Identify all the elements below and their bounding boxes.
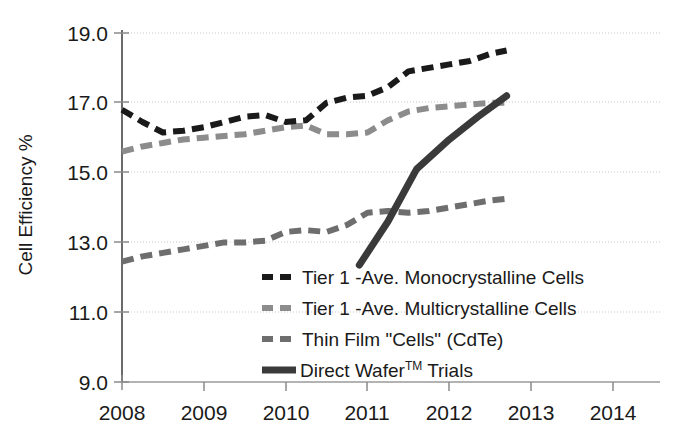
x-tick-label-2012: 2012 xyxy=(426,401,473,424)
y-tick-label-17: 17.0 xyxy=(67,91,108,114)
legend-item-direct-wafer: Direct WaferTM Trials xyxy=(262,359,473,381)
y-tick-label-9: 9.0 xyxy=(79,371,108,394)
x-tick-label-2010: 2010 xyxy=(263,401,310,424)
chart-legend: Tier 1 -Ave. Monocrystalline Cells Tier … xyxy=(262,267,584,381)
y-tick-label-13: 13.0 xyxy=(67,231,108,254)
legend-label-direct-wafer: Direct WaferTM Trials xyxy=(300,359,473,381)
legend-label-monocrystalline: Tier 1 -Ave. Monocrystalline Cells xyxy=(302,267,584,288)
legend-label-multicrystalline: Tier 1 -Ave. Multicrystalline Cells xyxy=(302,298,577,319)
x-tick-label-2014: 2014 xyxy=(590,401,637,424)
legend-label-thin-film: Thin Film "Cells" (CdTe) xyxy=(302,329,503,350)
legend-label-direct-wafer-suffix: Trials xyxy=(422,360,473,381)
efficiency-line-chart: 19.0 17.0 15.0 13.0 11.0 9.0 2008 2009 2… xyxy=(0,0,678,443)
y-tick-labels: 19.0 17.0 15.0 13.0 11.0 9.0 xyxy=(67,22,108,394)
y-axis-title: Cell Efficiency % xyxy=(15,134,36,275)
legend-item-multicrystalline: Tier 1 -Ave. Multicrystalline Cells xyxy=(262,298,577,319)
legend-label-direct-wafer-main: Direct Wafer xyxy=(300,360,406,381)
legend-item-thin-film: Thin Film "Cells" (CdTe) xyxy=(262,329,503,350)
x-tick-labels: 2008 2009 2010 2011 2012 2013 2014 xyxy=(99,401,637,424)
series-path-monocrystalline xyxy=(122,50,507,132)
y-tick-label-19: 19.0 xyxy=(67,22,108,45)
data-series-group xyxy=(122,50,507,265)
y-tick-label-11: 11.0 xyxy=(69,301,108,324)
x-tick-label-2009: 2009 xyxy=(181,401,228,424)
y-tick-label-15: 15.0 xyxy=(67,161,108,184)
legend-item-monocrystalline: Tier 1 -Ave. Monocrystalline Cells xyxy=(262,267,584,288)
x-tick-label-2008: 2008 xyxy=(99,401,146,424)
series-path-thin-film-cdte xyxy=(122,199,507,262)
legend-label-direct-wafer-tm: TM xyxy=(405,359,422,373)
chart-container: 19.0 17.0 15.0 13.0 11.0 9.0 2008 2009 2… xyxy=(0,0,678,443)
x-tick-label-2013: 2013 xyxy=(508,401,555,424)
x-tick-label-2011: 2011 xyxy=(344,401,389,424)
